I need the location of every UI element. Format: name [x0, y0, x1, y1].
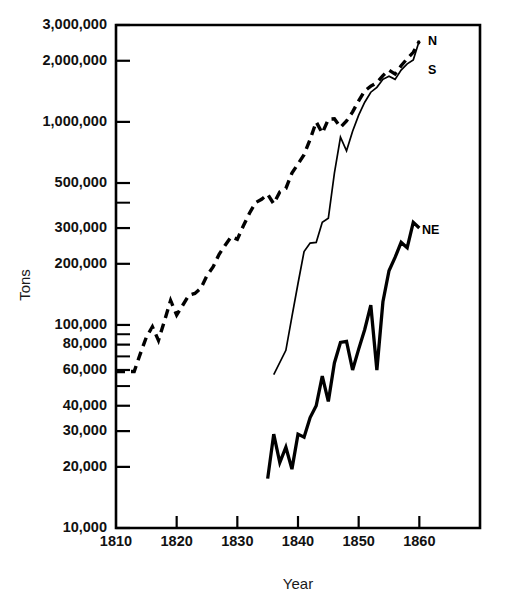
series-line-s [274, 40, 420, 374]
y-tick-label: 40,000 [63, 397, 107, 413]
x-axis-title: Year [283, 575, 313, 592]
y-tick-label: 80,000 [63, 335, 107, 351]
y-tick-label: 30,000 [63, 422, 107, 438]
y-tick-label: 1,000,000 [42, 113, 107, 129]
y-tick-label: 60,000 [63, 361, 107, 377]
x-tick-label: 1850 [343, 533, 375, 549]
series-label-ne: NE [422, 223, 439, 237]
series-label-s: S [428, 63, 436, 77]
x-tick-label: 1810 [100, 533, 132, 549]
x-tick-label: 1860 [403, 533, 435, 549]
y-tick-label: 200,000 [55, 255, 107, 271]
y-tick-label: 3,000,000 [42, 16, 107, 32]
x-tick-label: 1820 [161, 533, 193, 549]
x-tick-label: 1830 [221, 533, 253, 549]
y-axis-title: Tons [16, 269, 33, 301]
series-label-n: N [428, 34, 437, 48]
chart-svg: 3,000,0002,000,0001,000,000500,000300,00… [0, 0, 505, 608]
data-series-group [116, 40, 419, 478]
y-tick-label: 300,000 [55, 219, 107, 235]
series-line-ne [268, 222, 420, 478]
y-axis-tick-labels: 3,000,0002,000,0001,000,000500,000300,00… [42, 16, 107, 535]
x-tick-label: 1840 [282, 533, 314, 549]
axis-ticks-group [116, 25, 419, 528]
plot-frame [116, 25, 480, 528]
y-tick-label: 20,000 [63, 458, 107, 474]
y-tick-label: 2,000,000 [42, 52, 107, 68]
y-tick-label: 100,000 [55, 316, 107, 332]
x-axis-tick-labels: 181018201830184018501860 [100, 533, 436, 549]
y-tick-label: 500,000 [55, 174, 107, 190]
chart-figure: 3,000,0002,000,0001,000,000500,000300,00… [0, 0, 505, 608]
axes-group [116, 25, 480, 528]
series-labels-group: NSNE [422, 34, 439, 237]
